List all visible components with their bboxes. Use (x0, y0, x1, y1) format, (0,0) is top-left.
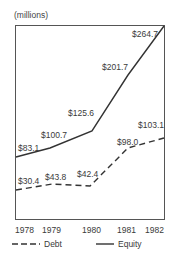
equity-label-1978: $83.1 (18, 143, 40, 153)
debt-label-1978: $30.4 (18, 176, 40, 186)
unit-label: (millions) (14, 10, 48, 20)
equity-line (16, 26, 164, 157)
x-axis-labels: 1978 1979 1980 1981 1982 (15, 225, 164, 235)
equity-label-1981: $201.7 (102, 62, 128, 72)
equity-label-1980: $125.6 (68, 108, 94, 118)
debt-label-1981: $98.0 (117, 137, 139, 147)
debt-label-1979: $43.8 (45, 172, 67, 182)
x-tick-1981: 1981 (117, 225, 136, 235)
equity-labels: $83.1 $100.7 $125.6 $201.7 $264.7 (18, 29, 158, 153)
legend-equity-label: Equity (118, 239, 142, 249)
equity-label-1979: $100.7 (41, 130, 67, 140)
debt-label-1982: $103.1 (138, 120, 164, 130)
debt-labels: $30.4 $43.8 $42.4 $98.0 $103.1 (18, 120, 164, 186)
debt-label-1980: $42.4 (77, 169, 99, 179)
legend: Debt Equity (12, 239, 142, 249)
equity-label-1982: $264.7 (132, 29, 158, 39)
x-tick-1978: 1978 (15, 225, 34, 235)
x-tick-1979: 1979 (42, 225, 61, 235)
x-tick-1982: 1982 (145, 225, 164, 235)
chart: (millions) $83.1 $100.7 $125.6 $201.7 $2… (0, 0, 177, 256)
x-tick-1980: 1980 (82, 225, 101, 235)
legend-debt-label: Debt (44, 239, 63, 249)
